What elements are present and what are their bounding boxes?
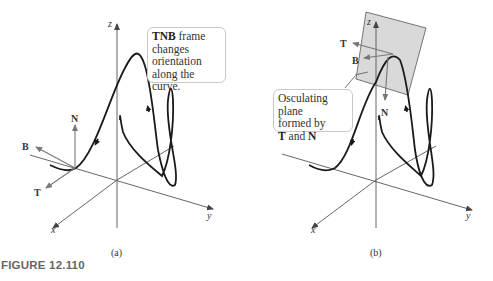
curve-direction-arrow-a2 (148, 108, 149, 112)
y-label-b: y (465, 210, 471, 221)
y-axis-a (30, 155, 213, 209)
b-label-a: B (22, 141, 29, 152)
callout-a-line4: along the curve. (152, 68, 221, 93)
binormal-vector-a (36, 147, 75, 168)
callout-leader-b2 (345, 76, 355, 88)
z-label-a: z (107, 18, 112, 29)
callout-b-bold1: T (278, 130, 286, 142)
curve-direction-arrow-b2 (406, 108, 407, 112)
callout-a-bold: TNB (152, 30, 176, 42)
y-label-a: y (206, 210, 212, 221)
z-label-b: z (366, 16, 371, 27)
n-label-a: N (71, 113, 79, 124)
x-axis-b (312, 180, 376, 228)
callout-b-bold2: N (308, 130, 316, 142)
y-axis-b (282, 154, 472, 210)
b-label-b: B (352, 55, 359, 66)
callout-tnb-frame: TNB frame changes orientation along the … (147, 27, 226, 83)
figure-canvas: z x y N B T (a) z x y (0, 0, 493, 281)
x-label-a: x (50, 224, 56, 235)
curve-direction-arrow-b1 (352, 139, 353, 143)
t-label-a: T (34, 187, 41, 198)
callout-a-line1: frame (176, 30, 206, 42)
sublabel-b: (b) (370, 247, 382, 259)
callout-b-line1: Osculating plane (278, 92, 348, 117)
figure-caption: FIGURE 12.110 (1, 259, 85, 271)
n-label-b: N (381, 107, 389, 118)
callout-b-line2: formed by (278, 117, 348, 130)
sublabel-a: (a) (111, 247, 122, 259)
callout-b-mid: and (286, 130, 308, 142)
x-label-b: x (310, 224, 316, 235)
callout-osculating-plane: Osculating plane formed by T and N (273, 89, 353, 132)
callout-a-line3: orientation (152, 55, 221, 68)
t-label-b: T (340, 38, 347, 49)
curve-direction-arrow-a1 (96, 139, 98, 143)
x-axis-a (53, 180, 117, 228)
callout-a-line2: changes (152, 43, 221, 56)
tangent-vector-a (46, 168, 75, 188)
